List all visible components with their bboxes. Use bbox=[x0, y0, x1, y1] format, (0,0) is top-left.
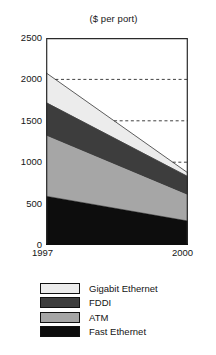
y-tick-label-1000: 1000 bbox=[4, 157, 42, 167]
legend-item-fddi: FDDI bbox=[40, 296, 200, 311]
x-axis-tick-labels: 1997 2000 bbox=[0, 248, 216, 262]
chart-legend: Gigabit Ethernet FDDI ATM Fast Ethernet bbox=[40, 281, 200, 339]
legend-label-fddi: FDDI bbox=[89, 298, 111, 308]
legend-label-fast-ethernet: Fast Ethernet bbox=[89, 327, 146, 337]
legend-swatch-atm bbox=[40, 312, 80, 323]
legend-label-gigabit-ethernet: Gigabit Ethernet bbox=[89, 284, 158, 294]
legend-swatch-fast-ethernet bbox=[40, 326, 80, 337]
plot-area bbox=[46, 38, 188, 245]
y-tick-label-2000: 2000 bbox=[4, 74, 42, 84]
x-tick-label-1997: 1997 bbox=[32, 248, 53, 258]
y-axis-tick-labels: 2500 2000 1500 1000 500 0 bbox=[0, 38, 42, 245]
legend-item-fast-ethernet: Fast Ethernet bbox=[40, 325, 200, 340]
chart-title: ($ per port) bbox=[36, 13, 191, 24]
legend-item-gigabit-ethernet: Gigabit Ethernet bbox=[40, 281, 200, 296]
y-tick-label-500: 500 bbox=[4, 199, 42, 209]
legend-swatch-fddi bbox=[40, 297, 80, 308]
stacked-area-plot bbox=[46, 38, 188, 245]
legend-item-atm: ATM bbox=[40, 310, 200, 325]
y-tick-label-2500: 2500 bbox=[4, 33, 42, 43]
y-tick-label-1500: 1500 bbox=[4, 116, 42, 126]
legend-label-atm: ATM bbox=[89, 313, 108, 323]
x-tick-label-2000: 2000 bbox=[172, 248, 193, 258]
legend-swatch-gigabit-ethernet bbox=[40, 283, 80, 294]
chart-figure: ($ per port) 2500 2000 1500 1000 500 0 bbox=[0, 0, 216, 355]
